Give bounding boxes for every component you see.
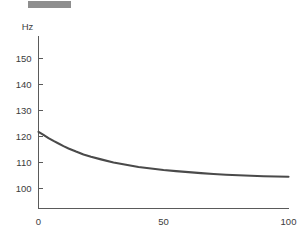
x-tick-label: 0 — [36, 216, 41, 227]
chart-labels: 100110120130140150050100Hz — [16, 21, 297, 227]
chart-ticks — [39, 59, 43, 189]
y-tick-label: 140 — [16, 79, 32, 90]
chart-series — [39, 132, 289, 177]
chart-axes — [39, 36, 289, 209]
y-tick-label: 120 — [16, 131, 32, 142]
x-tick-label: 50 — [158, 216, 169, 227]
chart-screenshot: 100110120130140150050100Hz — [0, 0, 300, 247]
line-chart: 100110120130140150050100Hz — [0, 0, 300, 247]
x-tick-label: 100 — [281, 216, 297, 227]
series-line — [39, 132, 289, 177]
y-tick-label: 150 — [16, 53, 32, 64]
y-tick-label: 100 — [16, 183, 32, 194]
y-axis-title: Hz — [22, 21, 34, 32]
y-tick-label: 130 — [16, 105, 32, 116]
y-tick-label: 110 — [16, 157, 31, 168]
